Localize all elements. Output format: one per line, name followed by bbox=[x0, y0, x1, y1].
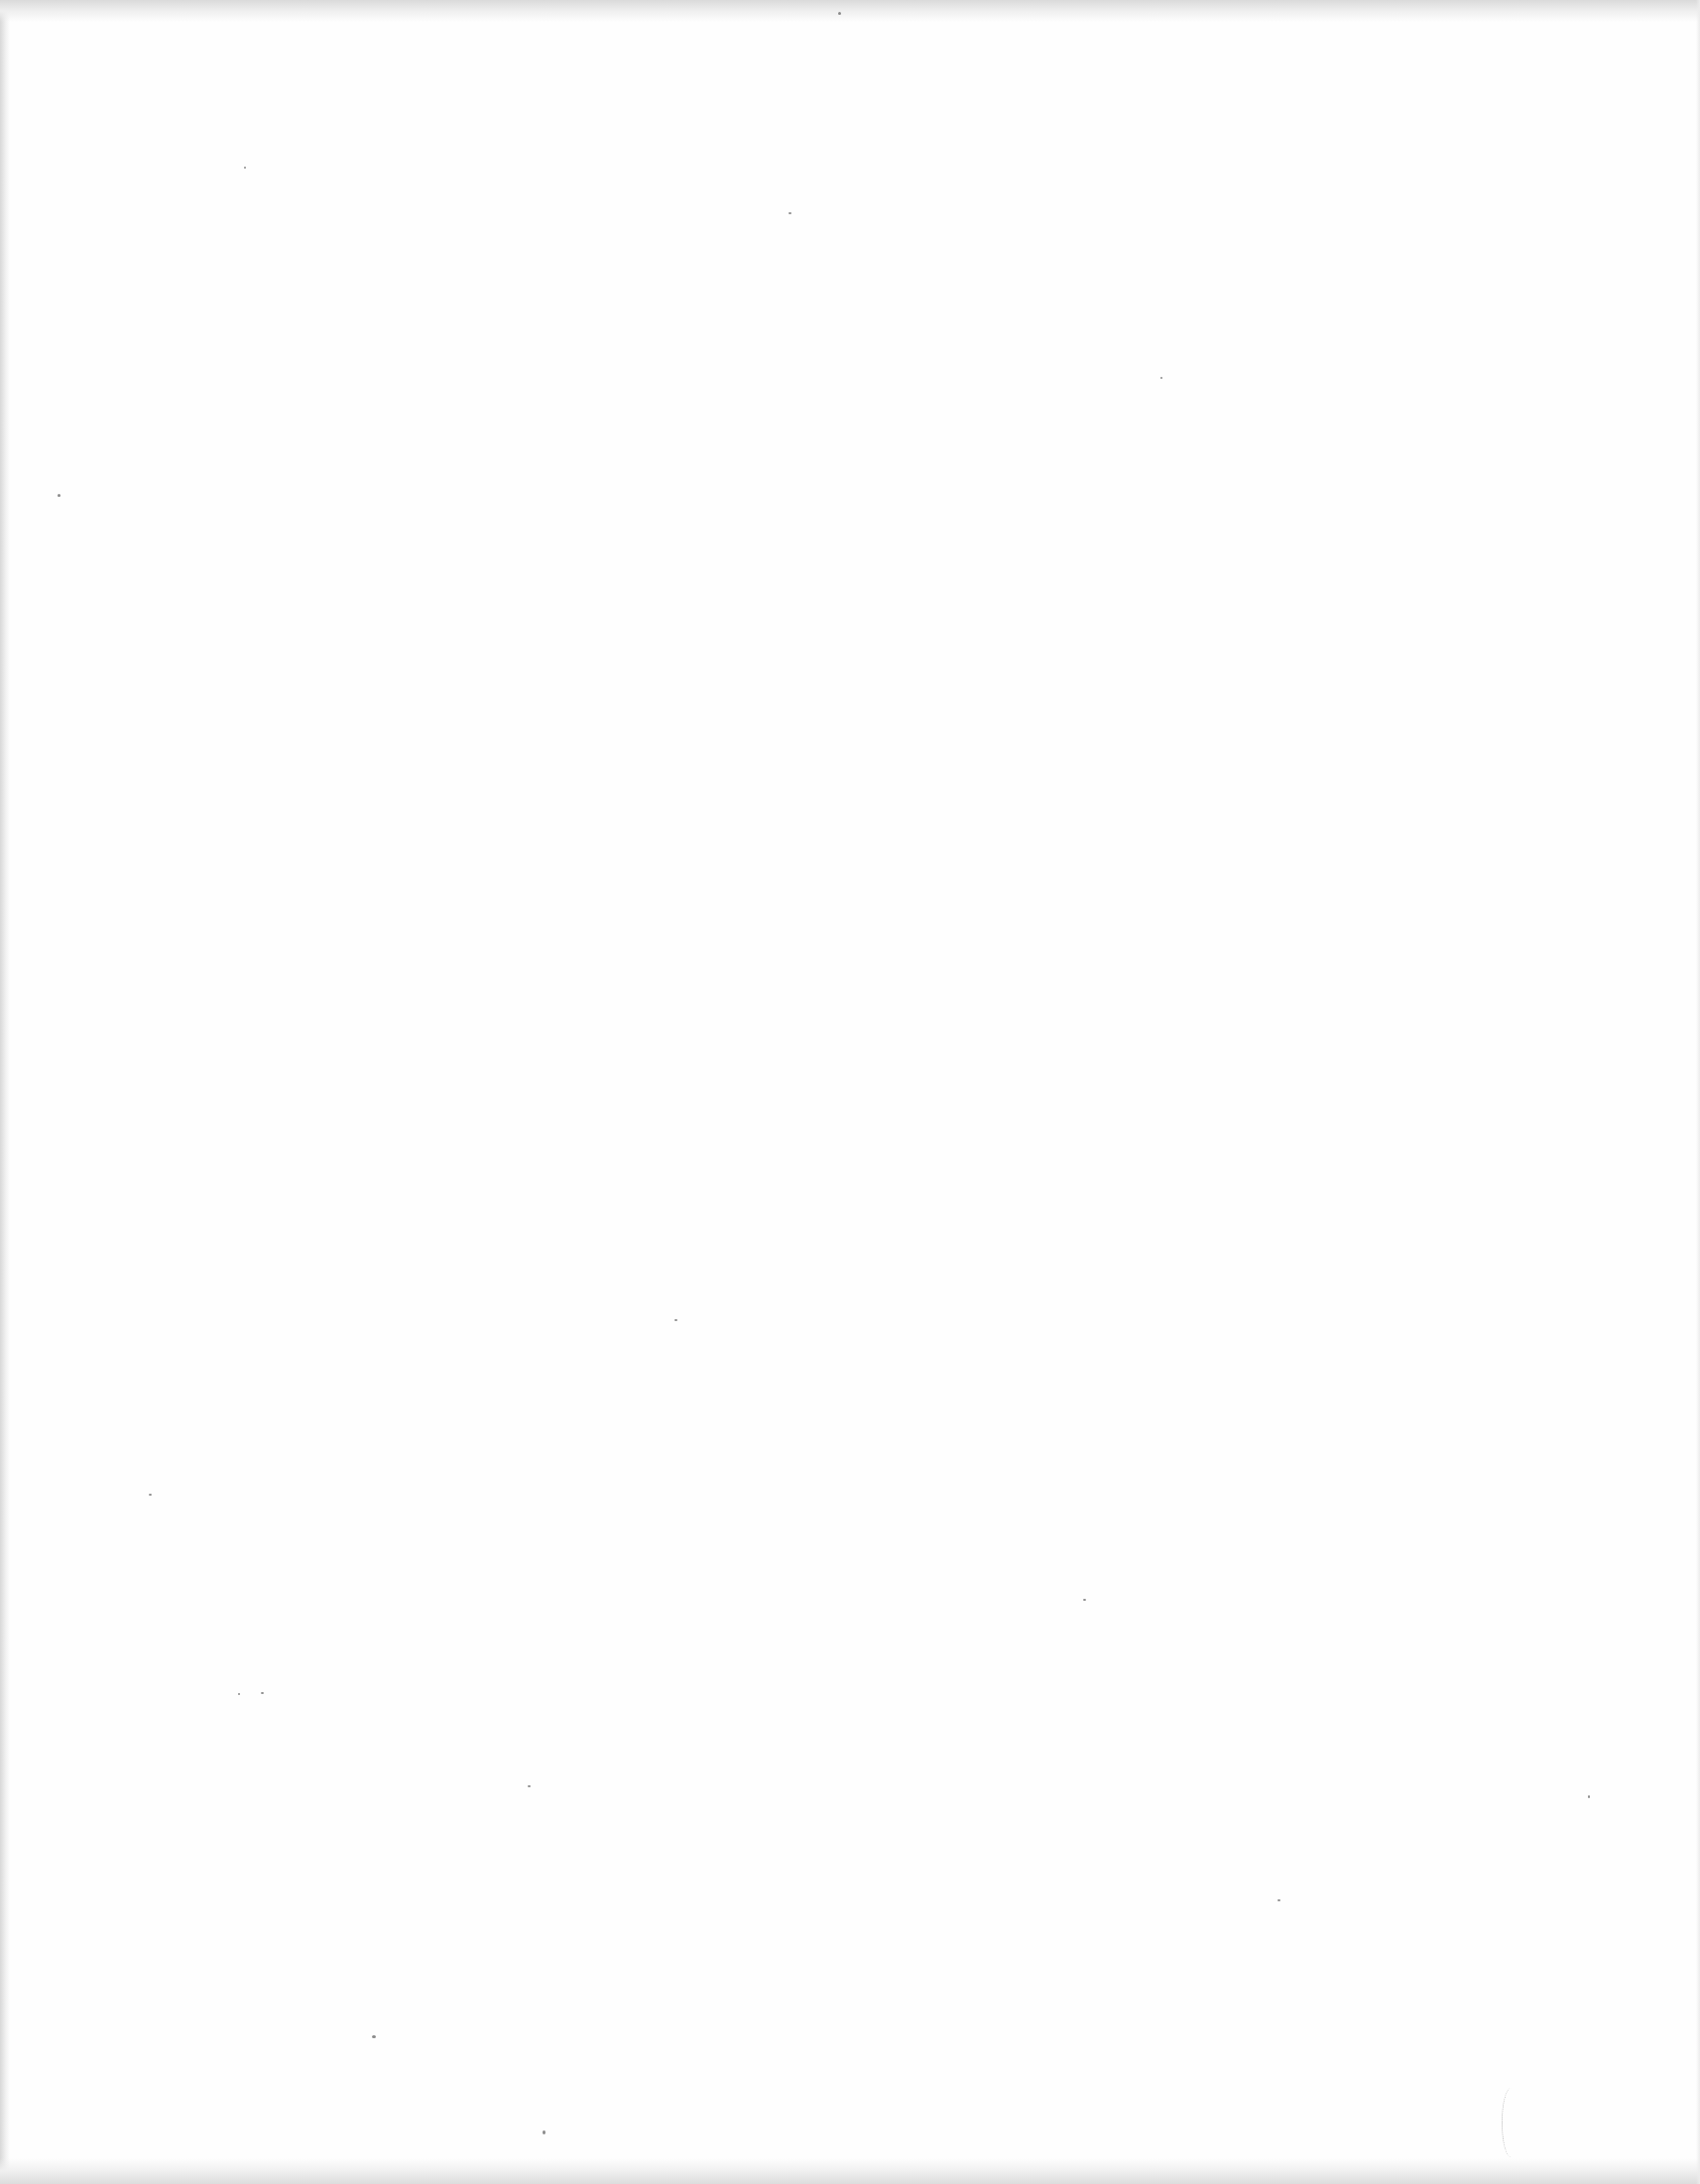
scan-speck bbox=[1083, 1599, 1086, 1601]
scan-speck bbox=[149, 1494, 152, 1496]
scan-speck bbox=[238, 1693, 240, 1695]
scan-edge-right bbox=[1696, 0, 1700, 2184]
scan-speck bbox=[372, 2035, 376, 2038]
scan-speck bbox=[838, 12, 841, 15]
scan-speck bbox=[789, 212, 791, 214]
scan-speck bbox=[528, 1785, 531, 1787]
scan-speck bbox=[1160, 377, 1162, 379]
scan-speck bbox=[58, 494, 61, 497]
scan-edge-top bbox=[0, 0, 1700, 22]
scan-speck bbox=[674, 1319, 677, 1321]
scan-speck bbox=[244, 167, 246, 169]
scan-speck bbox=[1588, 1795, 1590, 1798]
scan-speck bbox=[543, 2130, 546, 2134]
scan-speck bbox=[261, 1692, 264, 1694]
scan-edge-left bbox=[0, 0, 10, 2184]
blank-scanned-page bbox=[0, 0, 1700, 2184]
paper-mark bbox=[1502, 2088, 1520, 2157]
scan-edge-bottom bbox=[0, 2158, 1700, 2184]
scan-speck bbox=[1277, 1899, 1280, 1901]
